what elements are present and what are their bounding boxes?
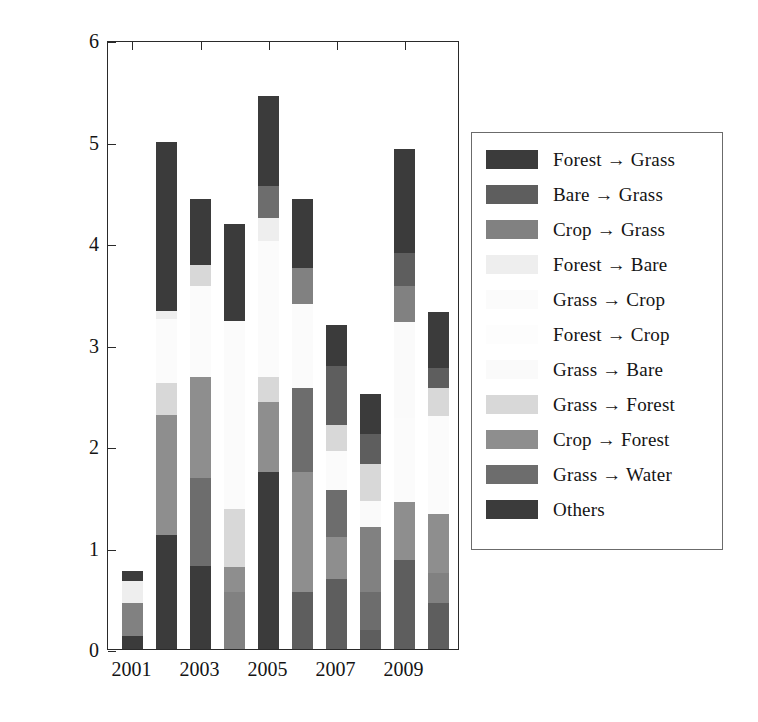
legend-swatch-icon <box>486 325 538 344</box>
legend-item-1[interactable]: Bare → Grass <box>472 177 722 212</box>
bar-segment <box>428 573 449 603</box>
legend-swatch-icon <box>486 360 538 379</box>
bar-segment <box>292 388 313 472</box>
bar-segment <box>292 472 313 592</box>
y-axis-tick-labels: 0123456 <box>55 41 99 650</box>
y-tick-label-6: 6 <box>89 30 99 53</box>
legend-item-4[interactable]: Grass → Crop <box>472 282 722 317</box>
legend-item-9[interactable]: Grass → Water <box>472 457 722 492</box>
bar-segment <box>156 311 177 319</box>
bar-segment <box>258 186 279 217</box>
bar-segment <box>326 537 347 579</box>
bar-segment <box>394 286 415 323</box>
legend-swatch-icon <box>486 255 538 274</box>
bar-segment <box>292 304 313 388</box>
x-tick-mark <box>405 42 406 50</box>
bar-segment <box>224 509 245 567</box>
bar-segment <box>360 527 381 592</box>
bar-segment <box>190 566 211 649</box>
y-tick-label-2: 2 <box>89 436 99 459</box>
bar-segment <box>258 96 279 186</box>
y-tick-mark-2 <box>108 448 116 449</box>
bar-segment <box>428 416 449 514</box>
y-tick-mark-0 <box>108 651 116 652</box>
bar-segment <box>122 581 143 603</box>
legend-item-10[interactable]: Others <box>472 492 722 527</box>
y-tick-mark-4 <box>108 245 116 246</box>
bar-2010[interactable] <box>428 312 449 649</box>
legend-swatch-icon <box>486 500 538 519</box>
plot-area <box>107 41 459 650</box>
y-tick-mark-5 <box>108 144 116 145</box>
legend-item-6[interactable]: Grass → Bare <box>472 352 722 387</box>
bar-segment <box>326 451 347 490</box>
bar-segment <box>428 603 449 649</box>
legend-swatch-icon <box>486 430 538 449</box>
bar-segment <box>326 425 347 451</box>
bar-segment <box>258 241 279 377</box>
bar-segment <box>224 567 245 592</box>
bar-2003[interactable] <box>190 199 211 649</box>
bar-segment <box>190 478 211 565</box>
bar-segment <box>394 418 415 502</box>
bar-2001[interactable] <box>122 571 143 649</box>
legend-swatch-icon <box>486 290 538 309</box>
legend-item-label: Crop → Grass <box>553 219 665 241</box>
x-tick-label-2001: 2001 <box>96 658 166 681</box>
y-tick-mark-3 <box>108 347 116 348</box>
figure-root: Annual land-cover change (km2) 0123456 2… <box>0 0 758 722</box>
bar-segment <box>156 319 177 383</box>
y-tick-label-1: 1 <box>89 537 99 560</box>
bar-2005[interactable] <box>258 96 279 649</box>
legend-item-label: Forest → Bare <box>553 254 667 276</box>
bar-segment <box>428 312 449 368</box>
y-tick-label-3: 3 <box>89 334 99 357</box>
bar-segment <box>326 366 347 425</box>
bar-segment <box>224 321 245 509</box>
y-tick-label-4: 4 <box>89 233 99 256</box>
bar-2002[interactable] <box>156 142 177 650</box>
bar-2008[interactable] <box>360 394 381 649</box>
bars-container <box>108 42 458 649</box>
bar-2004[interactable] <box>224 224 245 649</box>
legend-item-0[interactable]: Forest → Grass <box>472 142 722 177</box>
bar-segment <box>428 514 449 573</box>
legend-item-3[interactable]: Forest → Bare <box>472 247 722 282</box>
bar-segment <box>428 368 449 388</box>
bar-segment <box>394 322 415 417</box>
bar-segment <box>326 579 347 649</box>
bar-segment <box>156 383 177 414</box>
legend-item-8[interactable]: Crop → Forest <box>472 422 722 457</box>
legend-item-label: Crop → Forest <box>553 429 670 451</box>
bar-segment <box>122 603 143 635</box>
bar-segment <box>156 142 177 312</box>
bar-segment <box>190 199 211 265</box>
x-tick-mark <box>201 42 202 50</box>
legend-swatch-icon <box>486 150 538 169</box>
x-tick-mark <box>269 42 270 50</box>
legend-item-5[interactable]: Forest → Crop <box>472 317 722 352</box>
bar-segment <box>258 218 279 241</box>
bar-segment <box>394 502 415 560</box>
y-tick-label-5: 5 <box>89 131 99 154</box>
bar-segment <box>224 592 245 649</box>
legend-swatch-icon <box>486 220 538 239</box>
legend-item-2[interactable]: Crop → Grass <box>472 212 722 247</box>
bar-2007[interactable] <box>326 325 347 649</box>
bar-segment <box>190 377 211 479</box>
legend-swatch-icon <box>486 395 538 414</box>
legend-item-label: Grass → Forest <box>553 394 675 416</box>
x-tick-label-2009: 2009 <box>369 658 439 681</box>
x-tick-label-2005: 2005 <box>233 658 303 681</box>
bar-segment <box>122 636 143 649</box>
bar-2006[interactable] <box>292 199 313 649</box>
bar-2009[interactable] <box>394 149 415 649</box>
bar-segment <box>360 394 381 434</box>
bar-segment <box>360 464 381 501</box>
legend-item-7[interactable]: Grass → Forest <box>472 387 722 422</box>
y-tick-mark-1 <box>108 550 116 551</box>
bar-segment <box>292 592 313 649</box>
bar-segment <box>428 388 449 415</box>
legend-swatch-icon <box>486 185 538 204</box>
bar-segment <box>258 377 279 402</box>
